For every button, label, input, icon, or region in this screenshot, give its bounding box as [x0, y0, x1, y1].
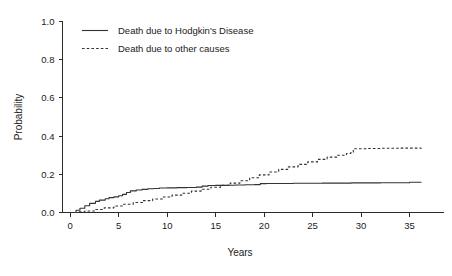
x-tick-label: 35	[404, 220, 415, 231]
x-tick-label: 25	[307, 220, 318, 231]
x-tick-label: 30	[356, 220, 367, 231]
x-axis-title: Years	[227, 247, 252, 258]
series-line-hodgkins	[70, 182, 421, 212]
y-tick-label: 0.2	[41, 169, 54, 180]
x-tick-label: 5	[116, 220, 121, 231]
series-group	[70, 148, 421, 213]
cumulative-incidence-plot: 0.00.20.40.60.81.0 Probability 051015202…	[0, 0, 452, 276]
y-tick-label: 0.0	[41, 207, 54, 218]
y-axis-title: Probability	[13, 94, 24, 141]
legend-label-other-causes: Death due to other causes	[118, 43, 230, 54]
x-tick-label: 0	[68, 220, 73, 231]
chart-figure: 0.00.20.40.60.81.0 Probability 051015202…	[0, 0, 452, 276]
x-tick-group: 05101520253035	[68, 213, 415, 231]
y-tick-label: 0.4	[41, 131, 54, 142]
y-tick-label: 1.0	[41, 16, 54, 27]
y-tick-label: 0.6	[41, 92, 54, 103]
y-tick-group: 0.00.20.40.60.81.0	[41, 16, 62, 218]
y-axis-group: 0.00.20.40.60.81.0 Probability	[13, 16, 63, 218]
x-axis-group: 05101520253035 Years	[63, 213, 444, 259]
x-tick-label: 10	[162, 220, 173, 231]
series-line-other-causes	[70, 148, 421, 213]
legend: Death due to Hodgkin's Disease Death due…	[82, 25, 253, 54]
y-tick-label: 0.8	[41, 54, 54, 65]
legend-label-hodgkins: Death due to Hodgkin's Disease	[118, 25, 253, 36]
x-tick-label: 20	[259, 220, 270, 231]
x-tick-label: 15	[210, 220, 221, 231]
